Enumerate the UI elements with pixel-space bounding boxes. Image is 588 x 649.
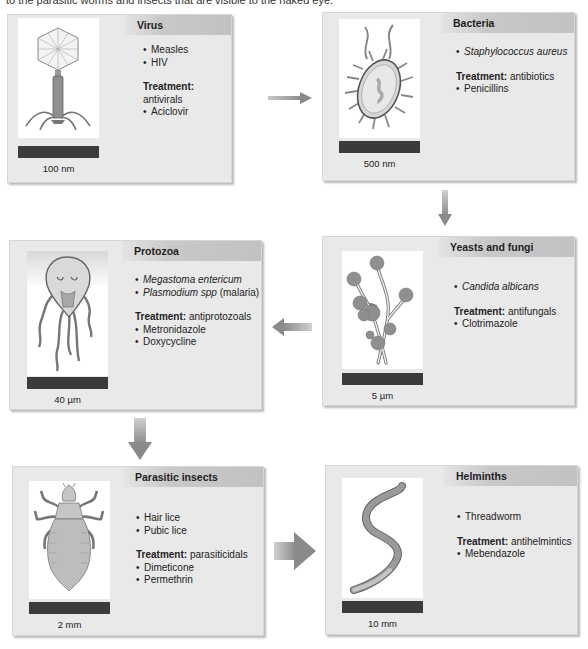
card-details: Measles HIV Treatment: antivirals Aciclo…: [143, 44, 231, 119]
examples-list: Measles HIV: [143, 44, 231, 69]
drug-item: Aciclovir: [143, 106, 231, 119]
treatment-class: antivirals: [143, 94, 182, 105]
example-item: Candida albicans: [454, 281, 570, 294]
card-protozoa: Protozoa 40 µm Megastoma entericum Plasm…: [9, 240, 262, 410]
card-details: Threadworm Treatment: antihelmintics Meb…: [457, 511, 575, 561]
giardia-protozoan-icon: [27, 251, 108, 376]
scale-label: 500 nm: [339, 158, 420, 169]
card-helminths: Helminths 10 mm Threadworm Treatment: an…: [325, 465, 578, 635]
examples-list: Megastoma entericum Plasmodium spp (mala…: [135, 274, 261, 299]
drug-item: Permethrin: [136, 574, 261, 587]
treatment-line: Treatment: antibiotics: [456, 71, 568, 84]
card-parasitic-insects: Parasitic insects 2 mm Hair lice Pubic l…: [12, 466, 264, 636]
scale-bar: [339, 141, 420, 153]
treatment-class: antihelmintics: [511, 536, 572, 547]
drug-item: Dimeticone: [136, 562, 261, 575]
example-item: Megastoma entericum: [135, 274, 261, 287]
treatment-label: Treatment:: [454, 306, 505, 317]
scale-label: 2 mm: [29, 619, 110, 630]
drug-list: Dimeticone Permethrin: [136, 562, 261, 587]
drug-item: Mebendazole: [457, 548, 575, 561]
treatment-class: antiprotozoals: [189, 311, 251, 322]
arrow-down-icon: [128, 418, 152, 460]
scale-bar: [342, 601, 423, 613]
scale-bar: [29, 602, 110, 614]
louse-icon: [29, 481, 110, 599]
examples-list: Hair lice Pubic lice: [136, 512, 261, 537]
treatment-class: parasiticidals: [190, 549, 248, 560]
treatment-line: Treatment: antifungals: [454, 306, 570, 319]
scale-label: 5 µm: [342, 390, 423, 401]
drug-item: Clotrimazole: [454, 318, 570, 331]
scale-bar: [18, 146, 99, 158]
drug-list: Mebendazole: [457, 548, 575, 561]
card-title: Virus: [125, 15, 231, 35]
card-details: Candida albicans Treatment: antifungals …: [454, 281, 570, 331]
drug-item: Doxycycline: [135, 336, 261, 349]
card-virus: Virus 100 nm Measles HIV Treatment: anti…: [7, 14, 232, 183]
card-details: Megastoma entericum Plasmodium spp (mala…: [135, 274, 261, 349]
drug-list: Penicillins: [456, 83, 568, 96]
treatment-class: antifungals: [508, 306, 556, 317]
example-item: Measles: [143, 44, 231, 57]
scale-bar: [342, 373, 423, 385]
arrow-right-icon: [274, 532, 316, 570]
treatment-line: Treatment: antihelmintics: [457, 536, 575, 549]
scale-label: 100 nm: [18, 163, 99, 174]
drug-item: Penicillins: [456, 83, 568, 96]
treatment-line: Treatment: antiprotozoals: [135, 311, 261, 324]
scale-bar: [27, 377, 108, 389]
arrow-left-icon: [272, 318, 312, 336]
treatment-label: Treatment:: [136, 549, 187, 560]
examples-list: Candida albicans: [454, 281, 570, 294]
card-title: Parasitic insects: [123, 467, 263, 487]
card-title: Helminths: [444, 466, 577, 486]
drug-item: Metronidazole: [135, 324, 261, 337]
treatment-class: antibiotics: [510, 71, 554, 82]
treatment-label: Treatment:: [456, 71, 507, 82]
card-details: Staphylococcus aureus Treatment: antibio…: [456, 46, 568, 96]
scale-label: 40 µm: [27, 394, 108, 405]
example-item: Staphylococcus aureus: [456, 46, 568, 59]
card-title: Protozoa: [122, 241, 261, 261]
treatment-label: Treatment:: [135, 311, 186, 322]
treatment-label: Treatment:: [143, 81, 194, 92]
treatment-line: Treatment: antivirals: [143, 81, 231, 106]
example-item: Threadworm: [457, 511, 575, 524]
drug-list: Metronidazole Doxycycline: [135, 324, 261, 349]
bacteriophage-virus-icon: [18, 18, 99, 138]
card-title: Yeasts and fungi: [438, 237, 574, 257]
drug-list: Aciclovir: [143, 106, 231, 119]
treatment-line: Treatment: parasiticidals: [136, 549, 261, 562]
examples-list: Threadworm: [457, 511, 575, 524]
scale-label: 10 mm: [342, 618, 423, 629]
example-item: Plasmodium spp (malaria): [135, 287, 261, 300]
card-details: Hair lice Pubic lice Treatment: parasiti…: [136, 512, 261, 587]
bacterium-icon: [339, 19, 420, 138]
arrow-right-icon: [268, 92, 312, 104]
examples-list: Staphylococcus aureus: [456, 46, 568, 59]
treatment-label: Treatment:: [457, 536, 508, 547]
card-yeasts-fungi: Yeasts and fungi: [322, 236, 575, 406]
card-bacteria: Bacteria 500 nm Staphylococcus aureus Tr…: [322, 12, 575, 181]
intro-caption: to the parasitic worms and insects that …: [6, 0, 333, 7]
fungal-hyphae-icon: [342, 251, 423, 369]
arrow-down-icon: [438, 190, 452, 226]
example-item: Hair lice: [136, 512, 261, 525]
drug-list: Clotrimazole: [454, 318, 570, 331]
worm-icon: [342, 478, 423, 598]
example-item: HIV: [143, 57, 231, 70]
card-title: Bacteria: [441, 13, 574, 33]
example-item: Pubic lice: [136, 525, 261, 538]
